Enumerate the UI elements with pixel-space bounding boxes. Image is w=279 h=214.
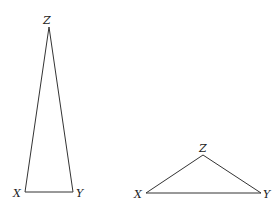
diagram-svg: Z X Y Z X Y (0, 0, 279, 214)
triangle-diagram: Z X Y Z X Y (0, 0, 279, 214)
tall-triangle-label-z: Z (42, 14, 51, 27)
wide-triangle: Z X Y (133, 142, 272, 201)
wide-triangle-label-x: X (133, 188, 143, 201)
wide-triangle-shape (146, 155, 261, 193)
wide-triangle-label-z: Z (198, 142, 207, 155)
wide-triangle-label-y: Y (263, 188, 272, 201)
tall-triangle-label-x: X (12, 187, 22, 200)
tall-triangle-shape (25, 27, 73, 192)
tall-triangle-label-y: Y (76, 187, 85, 200)
tall-triangle: Z X Y (12, 14, 85, 200)
